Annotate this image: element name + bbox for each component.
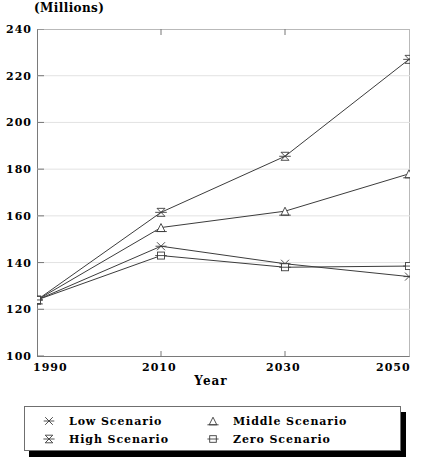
data-point-marker: [43, 435, 54, 443]
legend-item-label: Low Scenario: [69, 415, 162, 428]
x-tick-label: 2030: [266, 362, 301, 373]
square-bar-icon: [197, 432, 229, 446]
data-point-marker: [403, 263, 410, 270]
y-tick-label: 220: [0, 71, 32, 82]
x-tick-label: 1990: [33, 362, 68, 373]
chart-unit-title: (Millions): [34, 1, 104, 15]
legend-item[interactable]: High Scenario: [33, 431, 169, 447]
data-point-marker: [207, 436, 218, 443]
series-line-high-scenario: [37, 59, 409, 300]
series-line-low-scenario: [37, 246, 409, 300]
data-point-marker: [279, 264, 291, 271]
legend-item[interactable]: Middle Scenario: [197, 413, 347, 429]
y-tick-label: 200: [0, 117, 32, 128]
series-line-middle-scenario: [37, 174, 409, 300]
y-tick-label: 240: [0, 24, 32, 35]
data-point-marker: [155, 252, 167, 259]
data-point-marker: [403, 55, 410, 63]
legend-item[interactable]: Zero Scenario: [197, 431, 331, 447]
chart-legend: Low ScenarioHigh ScenarioMiddle Scenario…: [24, 406, 401, 451]
data-point-marker: [156, 242, 167, 250]
legend-item-label: Middle Scenario: [233, 415, 347, 428]
legend-item-label: High Scenario: [69, 433, 169, 446]
y-tick-label: 140: [0, 258, 32, 269]
y-tick-label: 180: [0, 164, 32, 175]
x-tick-label: 2010: [142, 362, 177, 373]
data-point-marker: [207, 417, 218, 425]
legend-item-label: Zero Scenario: [233, 433, 331, 446]
data-point-marker: [44, 417, 55, 425]
y-tick-label: 160: [0, 211, 32, 222]
x-tick-label: 2050: [376, 362, 411, 373]
y-tick-label: 120: [0, 304, 32, 315]
x-axis-title: Year: [0, 374, 422, 388]
legend-item[interactable]: Low Scenario: [33, 413, 162, 429]
triangle-bar-icon: [197, 414, 229, 428]
chart-page: (Millions) 100120140160180200220240 1990…: [0, 0, 422, 462]
data-point-marker: [403, 170, 410, 178]
data-point-marker: [404, 273, 411, 281]
y-tick-label: 100: [0, 351, 32, 362]
star-bar-icon: [33, 432, 65, 446]
line-chart-canvas: [37, 29, 410, 357]
x-bar-icon: [33, 414, 65, 428]
data-point-marker: [279, 207, 291, 215]
